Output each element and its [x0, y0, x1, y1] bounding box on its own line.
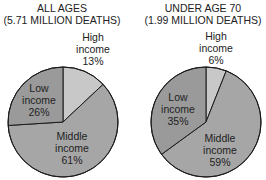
left-middle-label-3: 61%: [61, 154, 82, 166]
left-middle-label-1: Middle: [57, 130, 88, 142]
right-low-label-3: 35%: [167, 115, 188, 127]
left-low-label-1: Low: [29, 82, 49, 94]
right-middle-label-1: Middle: [205, 132, 236, 144]
left-high-label-3: 13%: [82, 55, 103, 67]
left-high-label-1: High: [82, 31, 104, 43]
pie-charts: Highincome13%Lowincome26%Middleincome61%…: [0, 0, 266, 180]
left-low-label-3: 26%: [28, 106, 49, 118]
right-high-label-2: income: [199, 42, 233, 54]
right-middle-label-3: 59%: [209, 156, 230, 168]
right-low-label-1: Low: [168, 91, 188, 103]
left-low-label-2: income: [22, 94, 56, 106]
right-middle-label-2: income: [203, 144, 237, 156]
right-high-label-3: 6%: [208, 54, 223, 66]
right-high-label-1: High: [205, 30, 227, 42]
left-middle-label-2: income: [55, 142, 89, 154]
right-low-label-2: income: [161, 103, 195, 115]
left-high-label-2: income: [76, 43, 110, 55]
